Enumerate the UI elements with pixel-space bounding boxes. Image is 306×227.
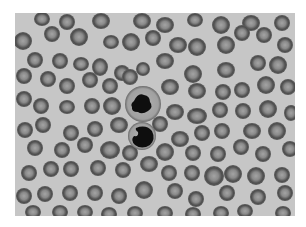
red-blood-cell xyxy=(127,206,143,216)
red-blood-cell xyxy=(243,123,261,139)
red-blood-cell xyxy=(77,137,93,153)
red-blood-cell xyxy=(235,103,251,119)
red-blood-cell xyxy=(166,104,184,120)
red-blood-cell xyxy=(90,160,106,176)
red-blood-cell xyxy=(161,79,179,95)
red-blood-cell xyxy=(171,131,189,147)
red-blood-cell xyxy=(284,105,295,121)
red-blood-cell xyxy=(52,205,68,216)
red-blood-cell xyxy=(184,65,202,83)
red-blood-cell xyxy=(122,33,140,51)
red-blood-cell xyxy=(256,27,272,43)
red-blood-cell xyxy=(27,140,43,156)
red-blood-cell xyxy=(234,25,250,41)
red-blood-cell xyxy=(215,84,231,100)
red-blood-cell xyxy=(62,185,78,201)
red-blood-cell xyxy=(37,186,53,202)
red-blood-cell xyxy=(185,207,201,216)
red-blood-cell xyxy=(101,207,117,216)
white-blood-cell xyxy=(128,122,156,150)
red-blood-cell xyxy=(167,183,183,199)
red-blood-cell xyxy=(15,32,32,50)
red-blood-cell xyxy=(16,188,32,204)
red-blood-cell xyxy=(43,161,59,177)
red-blood-cell xyxy=(233,139,249,155)
red-blood-cell xyxy=(70,28,88,46)
red-blood-cell xyxy=(110,117,128,133)
red-blood-cell xyxy=(217,62,235,78)
red-blood-cell xyxy=(188,38,206,56)
red-blood-cell xyxy=(217,36,235,54)
red-blood-cell xyxy=(140,156,158,172)
red-blood-cell xyxy=(156,143,174,161)
red-blood-cell xyxy=(52,53,68,69)
red-blood-cell xyxy=(187,13,203,27)
red-blood-cell xyxy=(188,191,204,207)
red-blood-cell xyxy=(103,97,121,115)
red-blood-cell xyxy=(21,165,37,181)
red-blood-cell xyxy=(145,30,161,46)
red-blood-cell xyxy=(82,72,98,88)
red-blood-cell xyxy=(194,125,210,141)
cell-field xyxy=(15,13,295,216)
red-blood-cell xyxy=(102,78,118,94)
red-blood-cell xyxy=(250,189,266,205)
red-blood-cell xyxy=(257,76,275,94)
red-blood-cell xyxy=(92,13,110,29)
red-blood-cell xyxy=(84,98,100,114)
red-blood-cell xyxy=(135,181,153,199)
red-blood-cell xyxy=(277,37,293,53)
red-blood-cell xyxy=(214,123,230,139)
red-blood-cell xyxy=(44,26,60,42)
red-blood-cell xyxy=(115,162,131,178)
red-blood-cell xyxy=(25,205,41,216)
red-blood-cell xyxy=(210,146,226,162)
red-blood-cell xyxy=(184,165,200,181)
red-blood-cell xyxy=(34,13,50,26)
red-blood-cell xyxy=(33,98,49,114)
red-blood-cell xyxy=(213,206,229,216)
red-blood-cell xyxy=(16,68,32,84)
red-blood-cell xyxy=(224,165,242,183)
red-blood-cell xyxy=(122,69,138,85)
red-blood-cell xyxy=(219,185,235,201)
red-blood-cell xyxy=(63,161,79,177)
red-blood-cell xyxy=(247,167,265,185)
red-blood-cell xyxy=(255,146,271,162)
red-blood-cell xyxy=(204,166,224,186)
red-blood-cell xyxy=(136,62,150,76)
red-blood-cell xyxy=(156,17,174,33)
blood-smear-micrograph xyxy=(15,13,295,216)
red-blood-cell xyxy=(280,79,295,95)
red-blood-cell xyxy=(234,82,250,98)
red-blood-cell xyxy=(27,52,43,68)
white-blood-cell xyxy=(125,86,161,122)
red-blood-cell xyxy=(73,57,89,71)
red-blood-cell xyxy=(212,102,228,118)
red-blood-cell xyxy=(87,121,103,137)
red-blood-cell xyxy=(274,15,290,31)
red-blood-cell xyxy=(269,56,287,74)
red-blood-cell xyxy=(277,185,293,201)
red-blood-cell xyxy=(156,53,174,69)
red-blood-cell xyxy=(17,122,33,138)
red-blood-cell xyxy=(59,100,75,114)
red-blood-cell xyxy=(35,117,51,133)
red-blood-cell xyxy=(237,204,253,216)
red-blood-cell xyxy=(111,188,127,204)
red-blood-cell xyxy=(157,206,173,216)
red-blood-cell xyxy=(161,165,177,181)
red-blood-cell xyxy=(103,35,119,49)
red-blood-cell xyxy=(16,91,32,107)
red-blood-cell xyxy=(100,141,120,159)
red-blood-cell xyxy=(87,185,103,201)
red-blood-cell xyxy=(59,78,75,94)
red-blood-cell xyxy=(282,141,295,157)
red-blood-cell xyxy=(259,100,277,118)
red-blood-cell xyxy=(63,125,79,141)
red-blood-cell xyxy=(54,142,70,158)
red-blood-cell xyxy=(92,58,108,76)
red-blood-cell xyxy=(187,108,207,124)
red-blood-cell xyxy=(59,14,75,30)
red-blood-cell xyxy=(188,83,206,99)
